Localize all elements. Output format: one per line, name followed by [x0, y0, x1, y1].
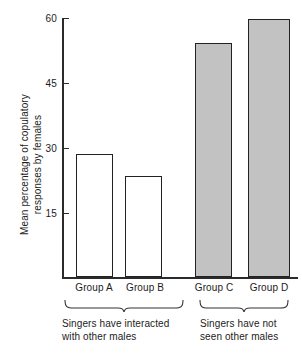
bar-group-d	[248, 19, 290, 277]
y-tick-label-45: 45	[45, 78, 57, 89]
y-tick-label-60: 60	[45, 13, 57, 24]
y-tick-15: 15	[63, 213, 69, 214]
category-axis-labels: Group A Group B Group C Group D	[62, 282, 298, 298]
y-tick-30: 30	[63, 148, 69, 149]
bar-chart-figure: Mean percentage of copulatory responses …	[0, 0, 302, 357]
y-tick-45: 45	[63, 83, 69, 84]
category-label-group-d: Group D	[237, 282, 301, 293]
bar-group-a	[76, 154, 113, 277]
y-axis-title: Mean percentage of copulatory responses …	[19, 60, 44, 270]
y-tick-60: 60	[63, 18, 69, 19]
bar-group-b	[125, 176, 162, 277]
caption-right-group: Singers have not seen other males	[200, 318, 300, 343]
plot-area: 60 45 30 15	[62, 16, 298, 279]
y-tick-label-30: 30	[45, 143, 57, 154]
caption-left-group: Singers have interacted with other males	[62, 318, 192, 343]
x-axis-baseline	[62, 277, 298, 279]
group-bracket-left	[64, 300, 184, 312]
category-label-group-b: Group B	[114, 282, 176, 293]
bar-group-c	[195, 43, 232, 278]
y-tick-label-15: 15	[45, 208, 57, 219]
group-bracket-right	[199, 300, 289, 312]
